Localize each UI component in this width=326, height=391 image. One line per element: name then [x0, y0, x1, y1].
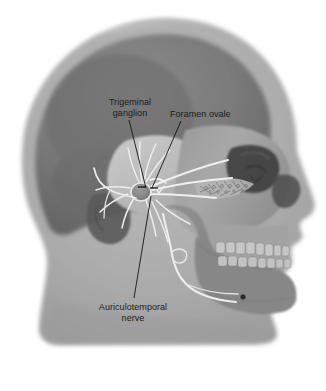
label-auriculotemporal-nerve: Auriculotemporal nerve [86, 302, 180, 323]
anatomical-figure: Trigeminal ganglion Foramen ovale Auricu… [0, 0, 326, 391]
label-auriculotemporal-nerve-line1: Auriculotemporal [86, 302, 180, 313]
label-trigeminal-ganglion: Trigeminal ganglion [99, 97, 161, 118]
label-trigeminal-ganglion-line2: ganglion [99, 108, 161, 119]
label-trigeminal-ganglion-line1: Trigeminal [99, 97, 161, 108]
head-anatomy-illustration [0, 0, 326, 391]
label-auriculotemporal-nerve-line2: nerve [86, 313, 180, 324]
label-foramen-ovale-line1: Foramen ovale [170, 109, 231, 120]
label-foramen-ovale: Foramen ovale [170, 109, 231, 120]
mental-foramen [240, 295, 245, 300]
